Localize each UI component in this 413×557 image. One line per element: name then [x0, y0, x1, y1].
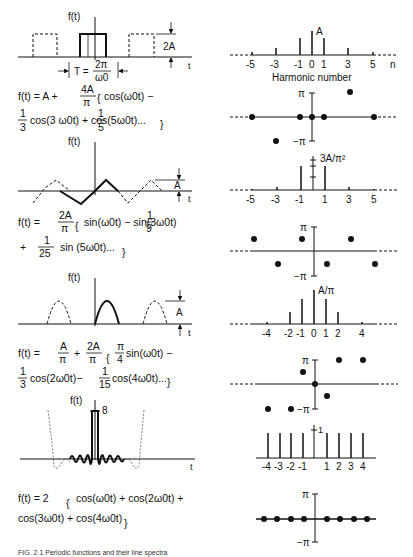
phase-neg-pi-label: −π [297, 404, 310, 415]
pulse-eq-line1-rest: cos(ω0t) + cos(2ω0t) + [76, 492, 183, 504]
brace-open-icon: { [97, 92, 101, 104]
square-period-label: T = [74, 66, 89, 77]
brace-close-icon: } [167, 376, 171, 388]
triangle-eq-line1-rest: sin(ω0t) − sin(3ω0t) [84, 216, 177, 228]
square-phase-spectrum: π −π [230, 88, 398, 147]
tick-label: -1 [295, 194, 304, 205]
tick-label: 3 [346, 194, 352, 205]
halfwave-eq-frac2-den: 15 [99, 378, 111, 390]
tick-label: -5 [246, 59, 255, 70]
brace-open-icon: { [66, 497, 70, 509]
square-ylabel: f(t) [68, 11, 80, 22]
tick-label: -4 [262, 328, 271, 339]
square-xlabel: t [188, 61, 191, 71]
tick-label: 5 [370, 59, 376, 70]
pulse-eq-prefix: f(t) = 2 [18, 492, 49, 504]
halfwave-eq-t3-num: π [117, 340, 124, 352]
tick-label: 5 [371, 194, 377, 205]
square-period-den: ω0 [95, 72, 109, 83]
triangle-magnitude-spectrum: 3A/π² -5 -3 -1 1 3 5 [230, 153, 398, 205]
tick-label: -1 [294, 59, 303, 70]
halfwave-amplitude-label: A [176, 307, 183, 318]
tick-label: -1 [296, 328, 305, 339]
square-eq-line2: cos(3 ω0t) + cos(5ω0t)... [30, 114, 146, 126]
pulse-peak-label: 8 [102, 405, 108, 416]
phase-pi-label: π [302, 489, 309, 500]
square-eq-prefix: f(t) = A + [18, 90, 58, 102]
phase-pi-label: π [298, 88, 305, 99]
tick-label: 3 [348, 461, 354, 472]
halfwave-eq-t1-den: π [59, 353, 66, 365]
tick-label: -3 [274, 461, 283, 472]
halfwave-eq-frac1-num: 1 [20, 365, 26, 377]
tick-label: -5 [246, 194, 255, 205]
brace-open-icon: { [75, 220, 79, 232]
halfwave-eq-line2-rest: cos(4ω0t)... [112, 372, 167, 384]
pulse-phase-spectrum: π −π [256, 489, 376, 548]
square-eq-coef-num: 4A [81, 83, 94, 95]
triangle-mag-peak-label: 3A/π² [320, 153, 346, 164]
halfwave-eq-prefix: f(t) = [18, 347, 40, 359]
phase-pi-label: π [300, 222, 307, 233]
tick-label: 3 [345, 59, 351, 70]
pulse-magnitude-spectrum: 1 -4 -3 -2 -1 1 2 3 4 [256, 425, 376, 472]
halfwave-magnitude-spectrum: A/π -4 -2 -1 0 1 2 4 [230, 285, 398, 339]
triangle-amplitude-label: A [174, 180, 181, 191]
tick-label: 1 [324, 461, 330, 472]
triangle-eq-prefix: f(t) = [18, 216, 40, 228]
harmonic-number-xlabel: Harmonic number [272, 72, 352, 83]
tick-label: -3 [270, 59, 279, 70]
tick-label: -2 [284, 328, 293, 339]
phase-neg-pi-label: −π [294, 271, 307, 282]
figure-canvas: f(t) t 2A T = 2π ω0 f(t) = A + 4A π { co… [0, 0, 413, 557]
pulse-waveform: f(t) 8 t [20, 395, 195, 472]
square-period-num: 2π [95, 59, 108, 70]
brace-close-icon: } [160, 118, 164, 130]
pulse-ylabel: f(t) [70, 395, 82, 406]
square-wave-waveform: f(t) t 2A T = 2π ω0 [18, 11, 192, 83]
halfwave-ylabel: f(t) [68, 272, 80, 283]
pulse-eq-line2: cos(3ω0t) + cos(4ω0t) [18, 512, 122, 524]
square-eq-frac2-den: 5 [98, 121, 104, 133]
halfwave-eq-t2-num: 2A [87, 340, 100, 352]
square-eq-coef-den: π [83, 96, 90, 108]
triangle-ylabel: f(t) [68, 136, 80, 147]
halfwave-waveform: f(t) A t [18, 272, 192, 338]
halfwave-mag-peak-label: A/π [318, 285, 334, 296]
halfwave-eq-t2-den: π [89, 353, 96, 365]
triangle-eq-frac1-num: 1 [147, 209, 153, 221]
halfwave-phase-spectrum: π −π [230, 355, 398, 415]
halfwave-eq-line1-rest: sin(ω0t) − [126, 347, 172, 359]
halfwave-equation: f(t) = A π + 2A π { π 4 sin(ω0t) − 1 3 c… [18, 340, 172, 390]
tick-label: -2 [286, 461, 295, 472]
tick-label: -3 [271, 194, 280, 205]
tick-label: -4 [262, 461, 271, 472]
square-eq-line1-rest: cos(ω0t) − [104, 90, 153, 102]
tick-label: 1 [321, 59, 327, 70]
triangle-eq-frac2-den: 25 [39, 247, 51, 259]
square-eq-frac2-num: 1 [98, 107, 104, 119]
tick-label: n [390, 59, 396, 70]
tick-label: 4 [359, 328, 365, 339]
tick-label: 2 [336, 461, 342, 472]
figure-caption: FIG. 2.1 Periodic functions and their li… [18, 549, 168, 557]
halfwave-eq-plus: + [74, 347, 80, 359]
halfwave-eq-frac2-num: 1 [102, 365, 108, 377]
square-amplitude-label: 2A [163, 41, 176, 52]
pulse-equation: f(t) = 2 { cos(ω0t) + cos(2ω0t) + cos(3ω… [18, 492, 183, 529]
tick-label: -1 [298, 461, 307, 472]
square-eq-frac1-num: 1 [20, 107, 26, 119]
square-mag-peak-label: A [316, 26, 323, 37]
triangle-eq-line2-prefix: + [20, 241, 26, 253]
phase-pi-label: π [302, 355, 309, 366]
tick-label: 1 [323, 328, 329, 339]
square-wave-equation: f(t) = A + 4A π { cos(ω0t) − 1 3 cos(3 ω… [18, 83, 164, 133]
triangle-wave-waveform: f(t) A t [18, 136, 192, 204]
triangle-eq-frac2-num: 1 [44, 234, 50, 246]
tick-label: 0 [311, 328, 317, 339]
tick-label: 1 [322, 194, 328, 205]
brace-close-icon: } [122, 246, 126, 258]
halfwave-eq-line2-mid: cos(2ω0t)− [30, 372, 82, 384]
pulse-xlabel: t [190, 462, 193, 472]
tick-label: 4 [360, 461, 366, 472]
